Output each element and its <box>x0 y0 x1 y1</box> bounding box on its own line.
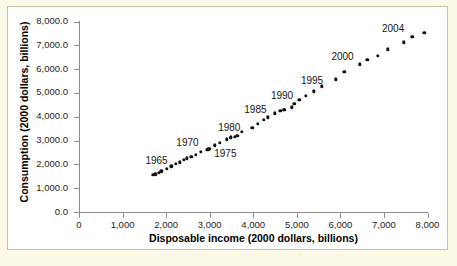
data-point <box>366 58 369 61</box>
data-point <box>290 106 293 109</box>
y-tick <box>74 45 79 46</box>
data-point <box>229 136 232 139</box>
data-point <box>160 170 163 173</box>
y-tick <box>74 22 79 23</box>
data-point <box>273 112 276 115</box>
year-annotation: 2000 <box>331 50 353 61</box>
data-point <box>402 41 405 44</box>
x-tick <box>123 213 124 218</box>
year-annotation: 1980 <box>218 121 240 132</box>
data-point <box>208 147 211 150</box>
data-point <box>213 144 216 147</box>
data-point <box>235 134 238 137</box>
data-point <box>423 31 426 34</box>
data-point <box>256 122 259 125</box>
x-tick-label: 7,000 <box>372 219 396 230</box>
year-annotation: 1995 <box>301 75 323 86</box>
data-point <box>282 108 285 111</box>
x-tick <box>79 213 80 218</box>
x-tick-label: 8,000 <box>416 219 440 230</box>
data-point <box>251 126 254 129</box>
year-annotation: 1975 <box>214 148 236 159</box>
year-annotation: 2004 <box>382 23 404 34</box>
x-tick <box>297 213 298 218</box>
x-tick-label: 6,000 <box>328 219 352 230</box>
y-axis-title: Consumption (2000 dollars, billions) <box>18 12 30 212</box>
y-tick <box>74 93 79 94</box>
data-point <box>178 161 181 164</box>
y-axis-line <box>79 21 80 213</box>
data-point <box>292 102 295 105</box>
data-point <box>165 167 168 170</box>
x-tick-label: 0 <box>76 219 81 230</box>
y-tick <box>74 164 79 165</box>
x-tick <box>253 213 254 218</box>
data-point <box>262 118 265 121</box>
data-point <box>174 162 177 165</box>
data-point <box>225 138 228 141</box>
data-point <box>304 94 307 97</box>
x-tick <box>340 213 341 218</box>
y-tick <box>74 117 79 118</box>
data-point <box>334 77 337 80</box>
scatter-plot: 0.01,000.02,000.03,000.04,000.05,000.06,… <box>0 0 457 266</box>
year-annotation: 1965 <box>145 155 167 166</box>
data-point <box>298 98 301 101</box>
data-point <box>343 70 346 73</box>
data-point <box>312 90 315 93</box>
data-point <box>194 153 197 156</box>
data-point <box>386 48 389 51</box>
x-axis-title: Disposable income (2000 dollars, billion… <box>79 232 428 244</box>
data-point <box>190 155 193 158</box>
year-annotation: 1985 <box>244 104 266 115</box>
x-tick <box>166 213 167 218</box>
data-point <box>218 141 221 144</box>
x-tick-label: 3,000 <box>198 219 222 230</box>
x-tick <box>428 213 429 218</box>
data-point <box>411 35 414 38</box>
data-point <box>240 130 243 133</box>
year-annotation: 1970 <box>176 136 198 147</box>
data-point <box>376 54 379 57</box>
y-tick <box>74 141 79 142</box>
data-point <box>170 165 173 168</box>
x-tick-label: 1,000 <box>111 219 135 230</box>
x-tick <box>384 213 385 218</box>
data-point <box>266 116 269 119</box>
y-tick <box>74 69 79 70</box>
data-point <box>199 150 202 153</box>
x-tick-label: 4,000 <box>241 219 265 230</box>
x-tick-label: 5,000 <box>285 219 309 230</box>
x-tick <box>210 213 211 218</box>
data-point <box>185 156 188 159</box>
x-tick-label: 2,000 <box>154 219 178 230</box>
year-annotation: 1990 <box>271 90 293 101</box>
data-point <box>358 63 361 66</box>
figure-container: 0.01,000.02,000.03,000.04,000.05,000.06,… <box>0 0 457 266</box>
y-tick <box>74 188 79 189</box>
